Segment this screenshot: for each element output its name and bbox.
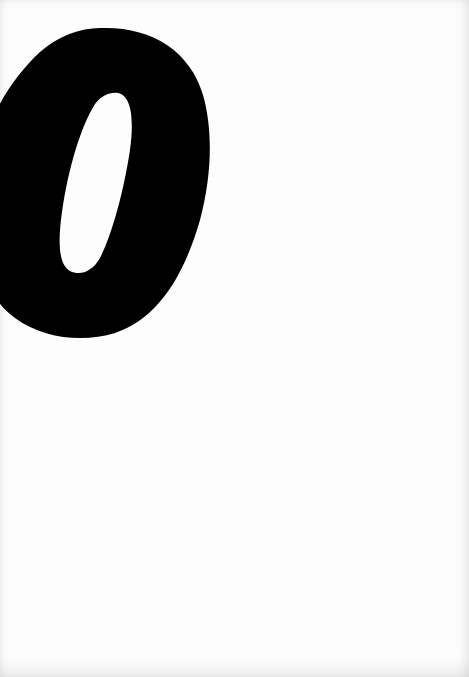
scanned-page: 0 <box>0 0 469 677</box>
large-zero-numeral <box>0 0 469 677</box>
zero-outer-shape <box>0 28 210 338</box>
